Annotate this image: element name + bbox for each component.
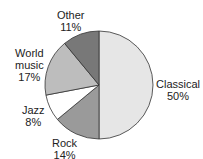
label-classical-pct: 50%: [156, 90, 200, 102]
label-world-music-line1: World: [15, 47, 44, 59]
label-rock-name: Rock: [52, 137, 77, 149]
label-world-music-line2: music: [15, 59, 44, 71]
label-jazz-pct: 8%: [22, 116, 45, 128]
label-world-music-pct: 17%: [15, 71, 44, 83]
label-other-pct: 11%: [57, 21, 85, 33]
label-classical: Classical 50%: [156, 78, 200, 102]
label-jazz-name: Jazz: [22, 104, 45, 116]
label-jazz: Jazz 8%: [22, 104, 45, 128]
label-classical-name: Classical: [156, 78, 200, 90]
label-world-music: World music 17%: [15, 47, 44, 83]
label-other: Other 11%: [57, 9, 85, 33]
label-rock-pct: 14%: [52, 149, 77, 159]
label-rock: Rock 14%: [52, 137, 77, 159]
label-other-name: Other: [57, 9, 85, 21]
pie-slice-classical: [99, 31, 153, 139]
